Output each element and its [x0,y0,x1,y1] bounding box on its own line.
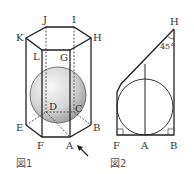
figure-2-caption: 図2 [110,158,126,169]
angle-arc-H [167,36,174,39]
label-E: E [16,122,23,133]
geometry-figures: J I K H L G D C E B F A 図1 45° H F [0,0,194,174]
right-angle-F [117,129,123,135]
figure-2: 45° H F A B 図2 [110,16,179,169]
figure-1: J I K H L G D C E B F A 図1 [16,14,102,169]
label-L: L [33,51,40,62]
label-A: A [65,140,74,151]
label-C: C [75,103,83,114]
label-I: I [72,14,76,25]
label-J: J [42,14,47,25]
right-angle-B [168,129,174,135]
label-B: B [93,122,100,133]
label-F: F [37,140,44,151]
label-A: A [140,140,149,151]
label-K: K [16,32,24,43]
angle-45-label: 45° [160,42,174,51]
label-B: B [170,140,177,151]
label-G: G [60,52,68,63]
label-F: F [113,140,120,151]
label-H: H [93,32,102,43]
label-H: H [170,16,179,27]
figure-1-caption: 図1 [16,158,32,169]
arrow-icon [77,145,88,156]
label-D: D [49,101,57,112]
